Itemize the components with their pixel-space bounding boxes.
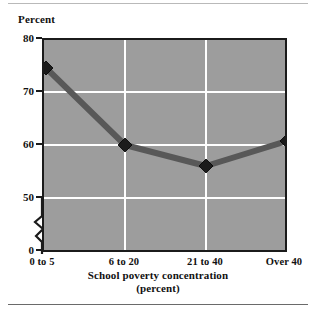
plot-area [42, 38, 287, 252]
data-point-marker-2 [199, 159, 213, 173]
y-axis-title: Percent [18, 13, 55, 25]
y-tick-label-60: 60 [8, 139, 34, 150]
y-tick-label-70: 70 [8, 86, 34, 97]
x-axis-title: School poverty concentration (percent) [0, 269, 316, 295]
x-tick-label-over-40: Over 40 [266, 256, 302, 267]
x-tick-label-6-to-20: 6 to 20 [109, 256, 139, 267]
bottom-divider [8, 304, 308, 305]
x-tick-label-0-to-5: 0 to 5 [29, 256, 54, 267]
series-percent [44, 40, 285, 250]
x-axis-title-line2: (percent) [0, 282, 316, 295]
x-tick-label-21-to-40: 21 to 40 [187, 256, 223, 267]
x-axis-title-line1: School poverty concentration [88, 269, 228, 281]
plot-inner [44, 40, 285, 250]
y-tick-label-80: 80 [8, 33, 34, 44]
top-divider [8, 3, 308, 4]
figure-container: Percent 80 70 60 50 0 [0, 0, 316, 313]
